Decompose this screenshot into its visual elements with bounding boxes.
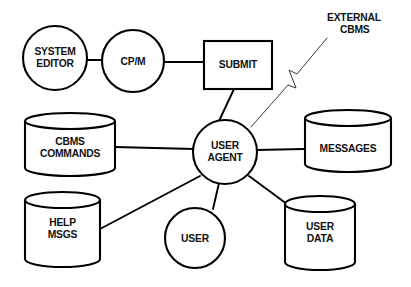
help-msgs-label-line1: HELP: [49, 217, 76, 228]
connector-cbms-commands-to-user-agent: [115, 147, 194, 149]
messages-label: MESSAGES: [320, 143, 377, 154]
submit-label: SUBMIT: [219, 59, 258, 70]
node-user[interactable]: USER: [165, 208, 225, 268]
cbms-commands-label-line2: COMMANDS: [40, 148, 101, 159]
user-agent-label-line1: USER: [211, 140, 240, 151]
user-data-cylinder-top: [285, 196, 355, 212]
connector-submit-to-user-agent: [219, 89, 234, 121]
cpm-label: CP/M: [121, 56, 146, 67]
cbms-system-diagram: SYSTEM EDITOR CP/M SUBMIT CBMS COMMANDS …: [0, 0, 411, 287]
node-cpm[interactable]: CP/M: [102, 30, 164, 92]
external-cbms-label-line2: CBMS: [340, 24, 370, 35]
messages-cylinder-top: [305, 110, 391, 126]
help-msgs-label-line2: MSGS: [48, 229, 78, 240]
connector-user-agent-to-messages: [256, 149, 304, 150]
cbms-commands-cylinder-top: [25, 113, 115, 129]
user-agent-label-line2: AGENT: [207, 152, 243, 163]
node-messages[interactable]: MESSAGES: [305, 110, 391, 172]
system-editor-label-line2: EDITOR: [36, 58, 74, 69]
annotation-external-cbms: EXTERNAL CBMS: [327, 12, 381, 35]
node-help-msgs[interactable]: HELP MSGS: [25, 192, 100, 267]
user-data-label-line1: USER: [306, 221, 335, 232]
system-editor-label-line1: SYSTEM: [34, 46, 75, 57]
help-msgs-cylinder-top: [25, 192, 100, 208]
user-data-label-line2: DATA: [307, 233, 334, 244]
node-user-agent[interactable]: USER AGENT: [193, 120, 257, 184]
node-user-data[interactable]: USER DATA: [285, 196, 355, 270]
external-cbms-label-line1: EXTERNAL: [327, 12, 381, 23]
connector-user-to-user-agent: [213, 183, 219, 209]
user-label: USER: [181, 233, 210, 244]
node-cbms-commands[interactable]: CBMS COMMANDS: [25, 113, 115, 176]
diagram-canvas: SYSTEM EDITOR CP/M SUBMIT CBMS COMMANDS …: [0, 0, 411, 287]
cbms-commands-label-line1: CBMS: [55, 136, 85, 147]
node-system-editor[interactable]: SYSTEM EDITOR: [23, 26, 87, 90]
node-submit[interactable]: SUBMIT: [204, 41, 272, 89]
